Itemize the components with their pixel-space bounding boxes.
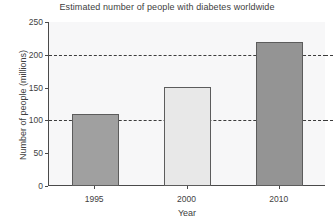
bar-2010: [256, 42, 303, 186]
x-axis-tick-label: 2000: [157, 194, 217, 204]
y-axis-tick-label: 200: [29, 50, 43, 60]
y-axis-tick-label: 150: [29, 83, 43, 93]
y-axis-tick-mark: [45, 22, 48, 23]
y-axis-tick-mark: [45, 55, 48, 56]
y-axis-tick-label: 0: [38, 181, 43, 191]
gridline-extension: [325, 120, 333, 121]
y-axis-tick-label: 50: [34, 148, 43, 158]
bar-chart-figure: Estimated number of people with diabetes…: [0, 0, 334, 223]
bar-1995: [72, 114, 119, 186]
y-axis-tick-mark: [45, 153, 48, 154]
x-axis-tick-mark: [187, 186, 188, 189]
x-axis-tick-mark: [94, 186, 95, 189]
y-axis-tick-label: 250: [29, 17, 43, 27]
x-axis-tick-mark: [279, 186, 280, 189]
x-axis-label: Year: [48, 208, 326, 218]
plot-inner: [49, 22, 325, 185]
y-axis-tick-mark: [45, 186, 48, 187]
x-axis-tick-label: 2010: [249, 194, 309, 204]
chart-title: Estimated number of people with diabetes…: [0, 2, 334, 12]
plot-area: [48, 22, 325, 186]
y-axis-tick-mark: [45, 120, 48, 121]
x-axis-tick-label: 1995: [64, 194, 124, 204]
bar-2000: [164, 87, 211, 186]
y-axis-tick-label: 100: [29, 115, 43, 125]
y-axis-tick-mark: [45, 88, 48, 89]
y-axis-label: Number of people (millions): [18, 25, 28, 185]
gridline-extension: [325, 55, 333, 56]
